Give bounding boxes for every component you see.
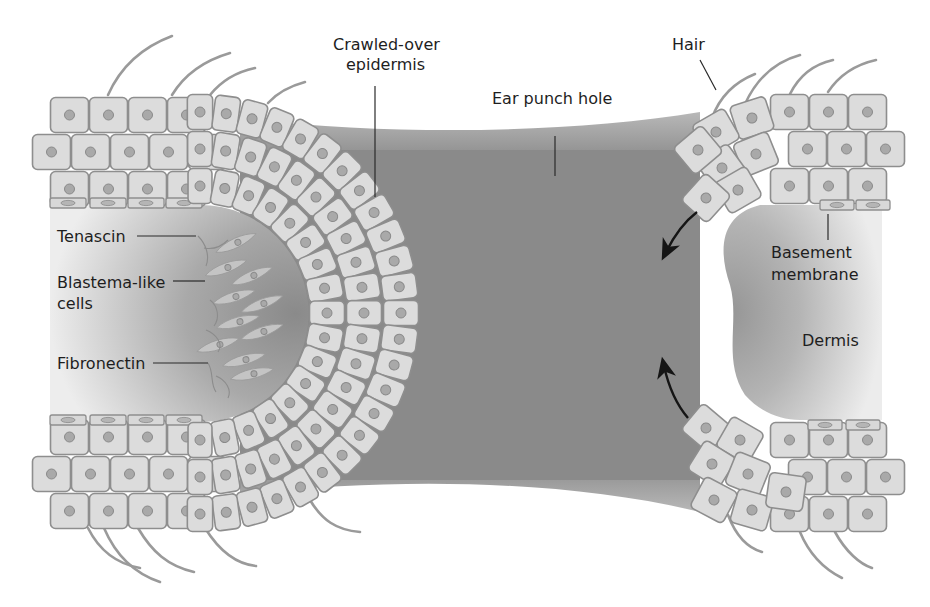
epidermal-cell	[771, 169, 809, 204]
label-cells: cells	[57, 294, 93, 313]
label-epidermis: epidermis	[346, 55, 425, 74]
right-dermis	[724, 205, 882, 420]
epidermal-cell	[810, 169, 848, 204]
label-blastema-like: Blastema-like	[57, 273, 165, 292]
label-fibronectin: Fibronectin	[57, 354, 145, 373]
epidermal-cell	[33, 457, 71, 492]
epidermal-cell	[828, 460, 866, 495]
label-tenascin: Tenascin	[56, 227, 126, 246]
epidermal-cell	[310, 301, 345, 325]
epidermal-cell	[849, 169, 887, 204]
label-dermis: Dermis	[802, 331, 859, 350]
epidermal-cell	[33, 135, 71, 170]
epidermal-cell	[187, 95, 212, 130]
label-ear-punch-hole: Ear punch hole	[492, 89, 612, 108]
basement-membrane-cell	[128, 415, 164, 425]
epidermal-cell	[150, 457, 188, 492]
epidermal-cell	[72, 135, 110, 170]
epidermal-cell	[90, 494, 128, 529]
epidermal-cell	[90, 98, 128, 133]
basement-membrane-cell	[50, 198, 86, 208]
label-basement: Basement	[771, 243, 852, 262]
epidermal-cell	[810, 497, 848, 532]
basement-membrane-cell	[820, 200, 854, 210]
epidermal-cell	[810, 95, 848, 130]
epidermal-cell	[111, 457, 149, 492]
epidermal-cell	[867, 132, 905, 167]
epidermal-cell	[129, 98, 167, 133]
epidermal-cell	[51, 98, 89, 133]
basement-membrane-cell	[90, 415, 126, 425]
epidermal-cell	[765, 472, 807, 512]
epidermal-cell	[72, 457, 110, 492]
epidermal-cell	[343, 272, 381, 302]
basement-membrane-cell	[846, 420, 880, 430]
epidermal-cell	[867, 460, 905, 495]
label-crawled-over: Crawled-over	[333, 35, 440, 54]
epidermal-cell	[188, 132, 213, 167]
epidermal-cell	[211, 493, 241, 531]
epidermal-cell	[384, 300, 419, 325]
epidermal-cell	[771, 423, 809, 458]
epidermal-cell	[211, 456, 241, 494]
basement-membrane-cell	[856, 200, 890, 210]
epidermal-cell	[771, 95, 809, 130]
label-membrane: membrane	[771, 265, 859, 284]
basement-membrane-cell	[808, 420, 842, 430]
epidermal-cell	[150, 135, 188, 170]
epidermal-cell	[51, 494, 89, 529]
basement-membrane-cell	[128, 198, 164, 208]
basement-membrane-cell	[50, 415, 86, 425]
epidermal-cell	[849, 497, 887, 532]
epidermal-cell	[789, 132, 827, 167]
epidermal-cell	[828, 132, 866, 167]
epidermal-cell	[188, 460, 213, 495]
epidermal-cell	[187, 497, 212, 532]
epidermal-cell	[188, 169, 212, 204]
epidermal-cell	[347, 301, 382, 326]
ear-punch-diagram: Crawled-over epidermis Ear punch hole Ha…	[0, 0, 930, 607]
epidermal-cell	[849, 95, 887, 130]
epidermal-cell	[129, 494, 167, 529]
epidermal-cell	[188, 423, 212, 458]
basement-membrane-cell	[90, 198, 126, 208]
epidermal-cell	[111, 135, 149, 170]
label-hair: Hair	[672, 35, 705, 54]
epidermal-cell	[380, 272, 418, 302]
